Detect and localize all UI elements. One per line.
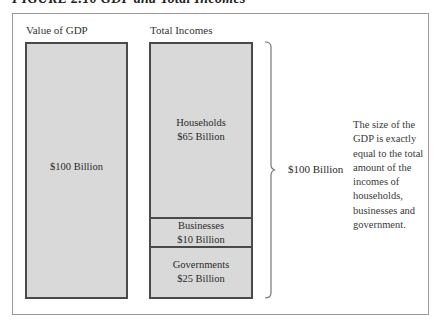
description-text: The size of the GDP is exactly equal to …: [353, 118, 431, 232]
businesses-value: $10 Billion: [151, 233, 251, 247]
curly-brace-icon: [262, 41, 276, 299]
governments-value: $25 Billion: [151, 272, 251, 286]
figure-title: FIGURE 2.10 GDP and Total Incomes: [12, 0, 246, 7]
gdp-value-box: $100 Billion: [25, 42, 128, 299]
businesses-segment: Businesses $10 Billion: [151, 217, 251, 246]
total-incomes-label: Total Incomes: [150, 24, 212, 36]
value-of-gdp-label: Value of GDP: [26, 24, 88, 36]
gdp-value-text: $100 Billion: [27, 160, 126, 174]
businesses-name: Businesses: [151, 219, 251, 233]
governments-segment: Governments $25 Billion: [151, 246, 251, 297]
total-incomes-box: Households $65 Billion Businesses $10 Bi…: [149, 42, 253, 299]
households-name: Households: [151, 116, 251, 130]
households-segment: Households $65 Billion: [151, 44, 251, 217]
households-value: $65 Billion: [151, 130, 251, 144]
brace-total-label: $100 Billion: [288, 163, 343, 175]
governments-name: Governments: [151, 258, 251, 272]
